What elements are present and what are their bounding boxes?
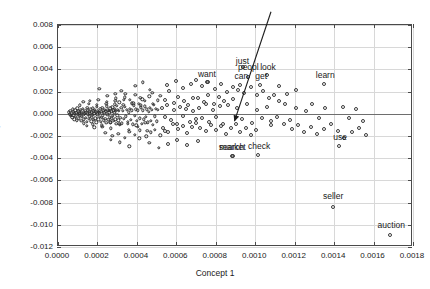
data-point <box>197 106 201 110</box>
x-axis-tick <box>216 242 217 246</box>
point-label: use <box>333 132 347 142</box>
point-label: seller <box>323 191 343 201</box>
data-point <box>322 127 326 131</box>
y-axis-tick <box>408 136 412 137</box>
data-point <box>118 116 121 119</box>
data-point <box>364 133 368 137</box>
data-point <box>196 96 200 100</box>
data-point <box>296 123 300 127</box>
data-point <box>347 116 351 120</box>
data-point <box>260 116 264 120</box>
data-point <box>294 88 298 92</box>
y-axis-tick <box>408 158 412 159</box>
x-tick-label: 0.0000 <box>45 251 69 260</box>
y-axis-tick <box>57 25 61 26</box>
x-axis-tick <box>137 24 138 28</box>
x-axis-tick <box>334 24 335 28</box>
y-axis-tick <box>408 180 412 181</box>
data-point <box>163 115 167 119</box>
data-point <box>118 141 121 144</box>
data-point <box>204 129 208 133</box>
point-label: learn <box>316 70 335 80</box>
data-point <box>267 96 271 100</box>
gridline-horizontal <box>58 247 411 248</box>
scatter-plot-figure: justpeopllookwantcangetlearnusechecksear… <box>0 0 430 289</box>
y-tick-label: -0.006 <box>30 175 53 184</box>
data-point <box>78 103 81 106</box>
data-point <box>269 119 273 123</box>
gridline-vertical <box>413 25 414 245</box>
gridline-vertical <box>255 25 256 245</box>
x-axis-tick <box>176 24 177 28</box>
data-point <box>198 126 202 130</box>
data-point <box>105 121 108 124</box>
data-point <box>277 84 281 88</box>
data-point <box>155 120 158 123</box>
data-point <box>171 122 175 126</box>
x-axis-tick <box>255 242 256 246</box>
gridline-vertical <box>137 25 138 245</box>
data-point <box>181 86 185 90</box>
data-point <box>166 142 170 146</box>
data-point <box>329 122 333 126</box>
data-point <box>240 117 244 121</box>
data-point <box>165 83 169 87</box>
data-point <box>141 81 144 84</box>
x-axis-tick <box>216 24 217 28</box>
data-point <box>185 143 189 147</box>
data-point <box>121 109 124 112</box>
labeled-data-point <box>258 83 262 87</box>
data-point <box>109 121 112 124</box>
x-axis-title: Concept 1 <box>0 268 430 278</box>
data-point <box>166 130 170 134</box>
data-point <box>219 82 223 86</box>
data-point <box>141 109 144 112</box>
data-point <box>272 93 276 97</box>
data-point <box>82 100 85 103</box>
data-point <box>129 118 132 121</box>
data-point <box>196 139 200 143</box>
data-point <box>255 93 259 97</box>
data-point <box>167 89 171 93</box>
data-point <box>249 85 253 89</box>
y-axis-tick <box>408 25 412 26</box>
data-point <box>282 122 286 126</box>
data-point <box>254 128 258 132</box>
gridline-horizontal <box>58 203 411 204</box>
gridline-horizontal <box>58 92 411 93</box>
data-point <box>288 118 292 122</box>
data-point <box>109 138 112 141</box>
data-point <box>181 124 185 128</box>
data-point <box>143 121 146 124</box>
data-point <box>185 131 189 135</box>
data-point <box>150 108 153 111</box>
data-point <box>225 90 229 94</box>
data-point <box>149 131 152 134</box>
y-axis-tick <box>408 203 412 204</box>
data-point <box>285 92 289 96</box>
data-point <box>212 102 216 106</box>
data-point <box>138 137 141 140</box>
labeled-data-point <box>256 153 260 157</box>
x-tick-label: 0.0010 <box>242 251 266 260</box>
data-point <box>136 108 139 111</box>
x-tick-label: 0.0004 <box>124 251 148 260</box>
data-point <box>315 132 319 136</box>
y-axis-tick <box>57 47 61 48</box>
data-point <box>158 94 161 97</box>
y-axis-tick <box>57 247 61 248</box>
data-point <box>290 127 294 131</box>
data-point <box>202 100 206 104</box>
data-point <box>238 130 242 134</box>
data-point <box>120 121 123 124</box>
y-tick-label: -0.010 <box>30 219 53 228</box>
data-point <box>85 120 88 123</box>
data-point <box>176 127 180 131</box>
data-point <box>226 103 230 107</box>
data-point <box>275 115 279 119</box>
y-tick-label: 0.002 <box>33 86 53 95</box>
x-axis-tick <box>137 242 138 246</box>
data-point <box>138 117 141 120</box>
data-point <box>93 126 96 129</box>
data-point <box>109 127 112 130</box>
